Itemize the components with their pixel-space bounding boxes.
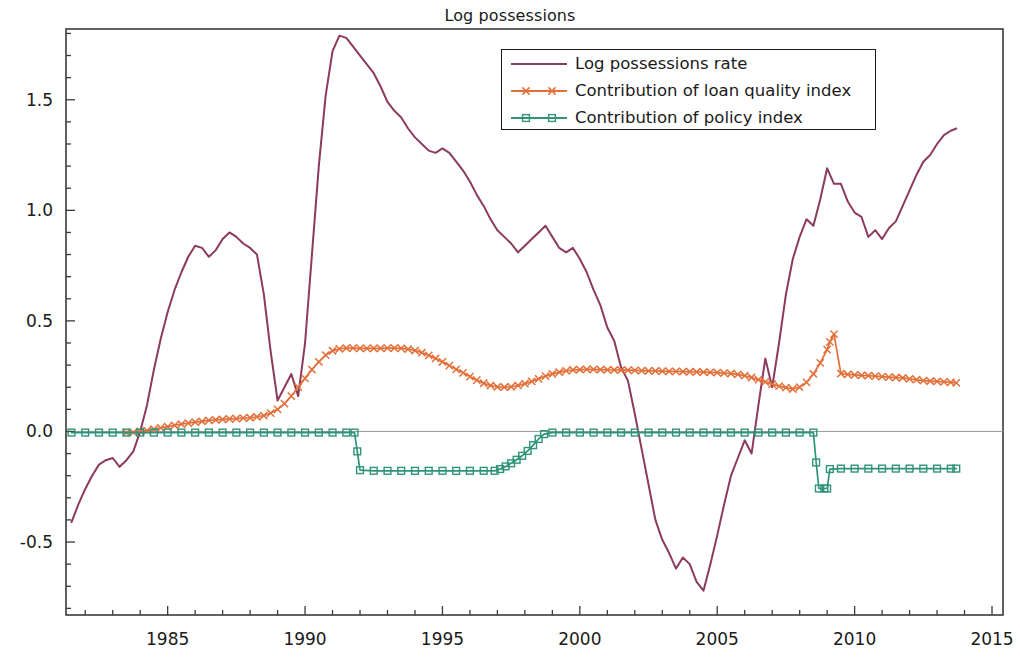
legend-swatch-log-possessions-rate [508,53,570,75]
chart-legend: Log possessions rate Contribution of loa… [501,49,876,130]
data-marker [446,362,453,369]
data-marker [810,370,817,377]
data-marker [439,358,446,365]
y-tick-label: 1.5 [26,90,53,110]
data-marker [473,377,480,384]
legend-label-1: Contribution of loan quality index [575,81,851,100]
legend-swatch-policy-index [508,107,570,129]
y-tick-label: 0.5 [26,311,53,331]
data-marker [459,369,466,376]
legend-swatch-loan-quality-index [508,80,570,102]
legend-item-0: Log possessions rate [502,50,875,77]
y-tick-label: 1.0 [26,200,53,220]
x-tick-label: 2005 [696,629,739,649]
data-marker [274,406,281,413]
x-tick-label: 1995 [421,629,464,649]
legend-label-0: Log possessions rate [575,54,747,73]
data-marker [466,373,473,380]
data-marker [288,392,295,399]
x-tick-label: 2015 [970,629,1013,649]
x-tick-label: 1985 [146,629,189,649]
data-marker [803,379,810,386]
y-tick-label: 0.0 [26,421,53,441]
legend-item-2: Contribution of policy index [502,104,875,131]
data-marker [453,366,460,373]
x-tick-label: 1990 [283,629,326,649]
data-marker [308,366,315,373]
data-marker [425,352,432,359]
x-tick-label: 2010 [833,629,876,649]
data-marker [301,375,308,382]
data-marker [432,355,439,362]
x-tick-label: 2000 [558,629,601,649]
data-marker [817,359,824,366]
data-marker [322,352,329,359]
y-tick-label: -0.5 [20,532,53,552]
legend-label-2: Contribution of policy index [575,108,803,127]
legend-item-1: Contribution of loan quality index [502,77,875,104]
chart-figure: Log possessions -0.50.00.51.01.519851990… [0,0,1020,667]
data-marker [281,400,288,407]
data-marker [535,375,542,382]
data-marker [315,358,322,365]
